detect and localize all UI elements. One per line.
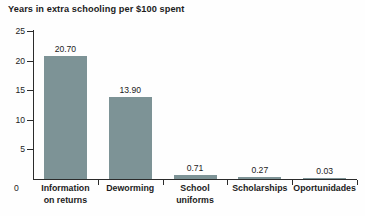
y-axis-tick-label: 10 [3,115,25,125]
y-axis-tick-label: 5 [3,144,25,154]
bar-value-label: 0.27 [251,165,268,175]
bar-value-label: 20.70 [55,44,77,54]
y-axis-tick-label: 25 [3,26,25,36]
bar-value-label: 13.90 [119,85,141,95]
bar [174,175,217,179]
x-axis-line [33,179,357,180]
y-axis-tick-label: 15 [3,85,25,95]
y-axis-labels: 510152025 [0,0,25,216]
bar [303,178,346,179]
chart-title: Years in extra schooling per $100 spent [8,4,185,14]
bar [238,177,281,179]
bar [44,56,87,179]
bar-value-label: 0.71 [187,163,204,173]
bar [109,97,152,179]
x-axis-category-label: Oportunidades [285,183,364,195]
y-axis-zero-label: 0 [14,183,19,193]
y-axis-tick-label: 20 [3,56,25,66]
bar-chart: Years in extra schooling per $100 spent … [0,0,365,216]
bar-value-label: 0.03 [316,166,333,176]
